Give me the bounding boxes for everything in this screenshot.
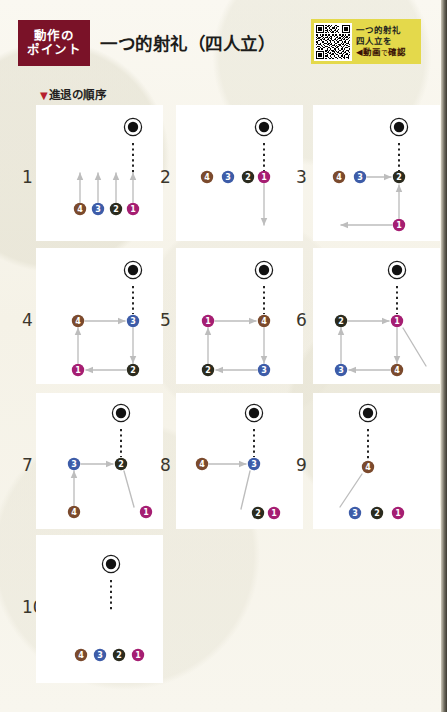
target-icon: [255, 118, 272, 135]
svg-text:4: 4: [78, 651, 84, 660]
panel-index-4: 4: [22, 310, 33, 330]
svg-text:2: 2: [396, 173, 402, 182]
svg-text:1: 1: [261, 173, 267, 182]
person-marker-3: 3: [94, 649, 106, 661]
person-marker-4: 4: [201, 171, 213, 183]
svg-text:2: 2: [118, 460, 124, 469]
person-marker-3: 3: [68, 458, 80, 470]
movement-arrow: [124, 471, 134, 507]
page: 動作の ポイント 一つ的射礼（四人立）: [0, 0, 447, 712]
person-marker-1: 1: [132, 649, 144, 661]
section-badge: 動作の ポイント: [18, 20, 90, 66]
page-header: 動作の ポイント 一つ的射礼（四人立）: [0, 0, 447, 78]
video-callout-line3: ◀動画で確認: [356, 47, 406, 58]
page-title: 一つ的射礼（四人立）: [100, 30, 275, 55]
svg-text:3: 3: [352, 509, 358, 518]
svg-text:1: 1: [143, 508, 149, 517]
svg-text:2: 2: [374, 509, 380, 518]
person-marker-1: 1: [127, 203, 139, 215]
target-icon: [255, 261, 272, 278]
svg-text:3: 3: [71, 460, 77, 469]
triangle-marker-icon: ▼: [40, 90, 48, 101]
svg-text:2: 2: [130, 366, 136, 375]
svg-text:4: 4: [199, 460, 205, 469]
svg-text:1: 1: [205, 317, 211, 326]
person-marker-1: 1: [392, 507, 404, 519]
svg-text:2: 2: [116, 651, 122, 660]
person-marker-2: 2: [335, 315, 347, 327]
person-marker-3: 3: [222, 171, 234, 183]
svg-text:1: 1: [75, 366, 81, 375]
person-marker-3: 3: [349, 507, 361, 519]
svg-text:3: 3: [225, 173, 231, 182]
person-marker-3: 3: [127, 315, 139, 327]
person-marker-2: 2: [252, 507, 264, 519]
section-subheading-label: 進退の順序: [49, 88, 106, 102]
panel-diagram-2: 4321: [176, 105, 303, 241]
svg-text:2: 2: [338, 317, 344, 326]
target-icon: [124, 118, 141, 135]
svg-text:2: 2: [245, 173, 251, 182]
person-marker-2: 2: [242, 171, 254, 183]
panel-index-2: 2: [160, 167, 171, 187]
svg-text:3: 3: [338, 366, 344, 375]
section-badge-line2: ポイント: [27, 43, 81, 57]
svg-text:1: 1: [130, 205, 136, 214]
person-marker-1: 1: [72, 364, 84, 376]
svg-text:3: 3: [95, 205, 101, 214]
svg-text:4: 4: [336, 173, 342, 182]
person-marker-4: 4: [362, 461, 374, 473]
svg-text:2: 2: [205, 366, 211, 375]
qr-code-icon[interactable]: [314, 23, 352, 61]
person-marker-2: 2: [202, 364, 214, 376]
person-marker-4: 4: [196, 458, 208, 470]
svg-text:3: 3: [97, 651, 103, 660]
svg-text:4: 4: [75, 317, 81, 326]
movement-arrow: [241, 471, 250, 509]
person-marker-4: 4: [75, 649, 87, 661]
target-icon: [388, 261, 405, 278]
person-marker-3: 3: [248, 458, 260, 470]
panel-index-7: 7: [22, 455, 33, 475]
panel-diagram-10: 4321: [36, 535, 163, 683]
target-icon: [390, 118, 407, 135]
video-qr-callout[interactable]: 一つ的射礼 四人立を ◀動画で確認: [311, 19, 421, 64]
svg-text:4: 4: [365, 463, 371, 472]
target-icon: [102, 555, 119, 572]
panel-diagram-5: 1423: [176, 248, 303, 384]
svg-text:4: 4: [261, 317, 267, 326]
target-icon: [245, 404, 262, 421]
person-marker-2: 2: [115, 458, 127, 470]
movement-arrow: [403, 328, 426, 366]
person-marker-1: 1: [140, 506, 152, 518]
panel-index-1: 1: [22, 167, 33, 187]
person-marker-1: 1: [393, 219, 405, 231]
video-callout-line2: 四人立を: [356, 36, 406, 47]
person-marker-1: 1: [202, 315, 214, 327]
person-marker-1: 1: [391, 315, 403, 327]
person-marker-4: 4: [72, 315, 84, 327]
person-marker-2: 2: [371, 507, 383, 519]
video-callout-line3-main: 動画: [363, 47, 381, 57]
panel-diagram-3: 4321: [313, 105, 440, 241]
svg-text:4: 4: [77, 205, 83, 214]
panel-diagram-8: 4321: [176, 393, 303, 529]
svg-text:3: 3: [130, 317, 136, 326]
person-marker-4: 4: [258, 315, 270, 327]
video-callout-line3-particle: で: [381, 49, 388, 57]
person-marker-4: 4: [391, 364, 403, 376]
svg-text:1: 1: [396, 221, 402, 230]
panel-diagram-6: 2134: [313, 248, 440, 384]
svg-text:1: 1: [271, 509, 277, 518]
person-marker-2: 2: [113, 649, 125, 661]
person-marker-3: 3: [92, 203, 104, 215]
panel-diagram-7: 3241: [36, 393, 163, 529]
person-marker-4: 4: [74, 203, 86, 215]
movement-arrow: [340, 474, 362, 507]
panel-index-5: 5: [160, 310, 171, 330]
person-marker-4: 4: [333, 171, 345, 183]
video-callout-line1: 一つ的射礼: [356, 25, 406, 36]
svg-text:2: 2: [255, 509, 261, 518]
svg-text:3: 3: [357, 173, 363, 182]
person-marker-2: 2: [127, 364, 139, 376]
